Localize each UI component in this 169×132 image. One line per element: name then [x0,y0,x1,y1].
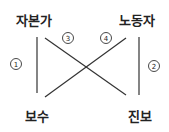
svg-text:1: 1 [14,61,18,69]
node-laborer: 노동자 [119,10,155,29]
diagram-canvas: 1 2 3 4 자본가 노동자 보수 진보 [0,0,169,132]
node-capitalist: 자본가 [16,10,52,29]
svg-text:4: 4 [104,35,109,43]
edge-2-number: 2 [149,61,160,72]
edge-1-number: 1 [11,59,22,70]
node-conservative: 보수 [25,106,49,125]
edge-3-number: 3 [63,33,74,44]
svg-text:3: 3 [66,35,70,43]
svg-text:2: 2 [152,63,156,71]
node-progressive: 진보 [128,106,152,125]
edge-4-number: 4 [101,33,112,44]
